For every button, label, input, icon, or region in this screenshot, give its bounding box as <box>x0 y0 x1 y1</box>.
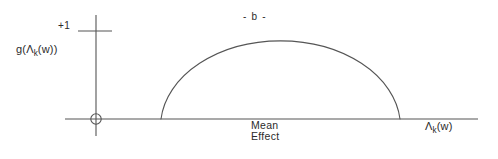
mean-effect-line-2: Effect <box>251 131 279 142</box>
curve-annotation-label: - b - <box>243 12 267 23</box>
plot-svg <box>0 0 498 159</box>
x-axis-label-text: Λk(w) <box>425 120 453 132</box>
y-axis-tick-label: +1 <box>58 21 70 32</box>
x-axis-label: Λk(w) <box>425 121 453 135</box>
y-axis-label-subscript: k <box>34 49 38 58</box>
y-axis-label-text: g(Λk(w)) <box>16 43 58 55</box>
figure-canvas: g(Λk(w)) +1 - b - MeanEffect Λk(w) <box>0 0 498 159</box>
response-curve <box>161 41 400 119</box>
y-axis-label: g(Λk(w)) <box>16 44 58 58</box>
mean-effect-annotation: MeanEffect <box>251 120 279 142</box>
x-axis-label-subscript: k <box>433 126 437 135</box>
